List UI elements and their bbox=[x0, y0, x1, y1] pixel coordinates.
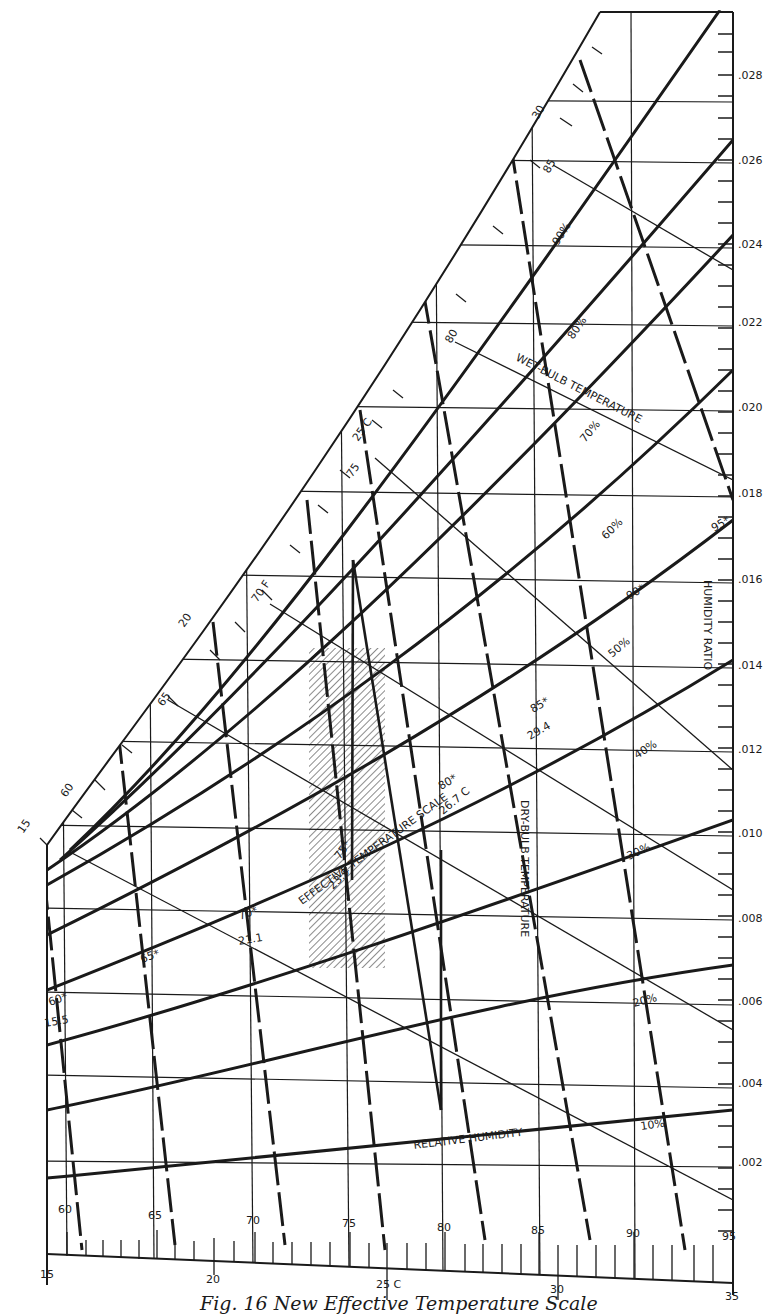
svg-text:60: 60 bbox=[58, 781, 77, 800]
svg-text:29.4: 29.4 bbox=[525, 719, 553, 743]
svg-text:.012: .012 bbox=[738, 743, 763, 756]
svg-text:30%: 30% bbox=[625, 841, 653, 863]
svg-text:.010: .010 bbox=[738, 827, 763, 840]
figure-caption: Fig. 16 New Effective Temperature Scale bbox=[200, 1292, 598, 1314]
svg-text:.024: .024 bbox=[738, 238, 763, 251]
svg-text:95: 95 bbox=[722, 1230, 736, 1243]
svg-text:85*: 85* bbox=[528, 694, 552, 715]
svg-text:.016: .016 bbox=[738, 573, 763, 586]
svg-text:90: 90 bbox=[626, 1227, 640, 1240]
svg-text:15: 15 bbox=[15, 817, 34, 836]
svg-text:40%: 40% bbox=[632, 738, 660, 762]
rh-50 bbox=[47, 520, 733, 935]
svg-text:.004: .004 bbox=[738, 1077, 763, 1090]
svg-text:.022: .022 bbox=[738, 316, 763, 329]
svg-text:70: 70 bbox=[246, 1214, 260, 1227]
saturation-labels: 15 20 25 C 30 60 65 70 F 75 80 85 bbox=[15, 103, 559, 836]
svg-text:.002: .002 bbox=[738, 1156, 763, 1169]
svg-text:80: 80 bbox=[437, 1221, 451, 1234]
humidity-ratio-ticks bbox=[718, 34, 733, 1231]
svg-text:20: 20 bbox=[176, 611, 195, 630]
svg-text:20%: 20% bbox=[631, 991, 658, 1010]
svg-text:25 C: 25 C bbox=[376, 1278, 401, 1291]
rh-60 bbox=[47, 370, 733, 885]
rh-labels: 10% 20% 30% 40% 50% 60% 70% 80% 90% bbox=[550, 220, 666, 1133]
svg-text:60%: 60% bbox=[599, 516, 625, 542]
svg-text:65: 65 bbox=[148, 1209, 162, 1222]
wet-bulb-label: WET-BULB TEMPERATURE bbox=[514, 351, 645, 426]
rh-10 bbox=[47, 1110, 733, 1178]
svg-text:25 C: 25 C bbox=[350, 415, 375, 443]
svg-text:75: 75 bbox=[344, 461, 363, 480]
svg-text:.026: .026 bbox=[738, 154, 763, 167]
svg-text:.020: .020 bbox=[738, 401, 763, 414]
svg-text:35: 35 bbox=[725, 1290, 739, 1303]
svg-text:.018: .018 bbox=[738, 487, 763, 500]
svg-text:85: 85 bbox=[540, 157, 558, 176]
svg-text:70*: 70* bbox=[237, 904, 260, 923]
svg-text:50%: 50% bbox=[606, 635, 633, 661]
svg-text:60: 60 bbox=[58, 1203, 72, 1216]
svg-text:15: 15 bbox=[40, 1268, 54, 1281]
svg-text:70%: 70% bbox=[577, 418, 603, 445]
dry-bulb-gridlines bbox=[63, 10, 635, 1282]
rh-20 bbox=[47, 965, 733, 1110]
svg-text:21.1: 21.1 bbox=[237, 931, 263, 948]
svg-text:.006: .006 bbox=[738, 995, 763, 1008]
svg-text:.008: .008 bbox=[738, 912, 763, 925]
svg-text:20: 20 bbox=[206, 1273, 220, 1286]
svg-text:80%: 80% bbox=[565, 314, 590, 341]
svg-text:85: 85 bbox=[531, 1224, 545, 1237]
svg-text:75: 75 bbox=[342, 1217, 356, 1230]
effective-temperature-lines bbox=[40, 60, 733, 1250]
svg-text:70 F: 70 F bbox=[249, 578, 273, 605]
humidity-ratio-labels: .002 .004 .006 .008 .010 .012 .014 .016 … bbox=[738, 69, 763, 1169]
dry-bulb-label: DRY-BULB TEMPERATURE bbox=[518, 800, 531, 937]
svg-text:.014: .014 bbox=[738, 659, 763, 672]
humidity-ratio-label: HUMIDITY RATIO bbox=[701, 580, 714, 671]
svg-text:10%: 10% bbox=[640, 1117, 666, 1133]
svg-text:.028: .028 bbox=[738, 69, 763, 82]
